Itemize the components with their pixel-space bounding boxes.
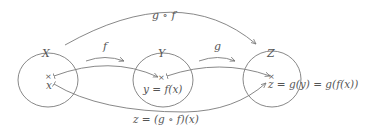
- arrow-f-label: f: [102, 40, 109, 53]
- element-x-label: x: [46, 79, 52, 91]
- function-composition-diagram: X Y Z f g g ∘ f × × × x y = f(x) z = g(y…: [0, 0, 367, 134]
- set-x-label: X: [41, 47, 51, 60]
- element-arrow-x-to-y: [54, 66, 158, 77]
- element-y-label: y = f(x): [142, 83, 182, 95]
- element-y-marker: ×: [158, 73, 165, 82]
- arrow-g: [199, 58, 235, 62]
- arrow-f: [86, 58, 124, 62]
- arrow-g-compose-f-label: g ∘ f: [152, 9, 177, 22]
- element-arrow-y-to-z: [167, 67, 270, 76]
- set-z-label: Z: [266, 47, 275, 60]
- arrow-g-label: g: [214, 40, 221, 53]
- composition-label: z = (g ∘ f)(x): [132, 113, 199, 125]
- element-z-label: z = g(y) = g(f(x)): [267, 78, 358, 90]
